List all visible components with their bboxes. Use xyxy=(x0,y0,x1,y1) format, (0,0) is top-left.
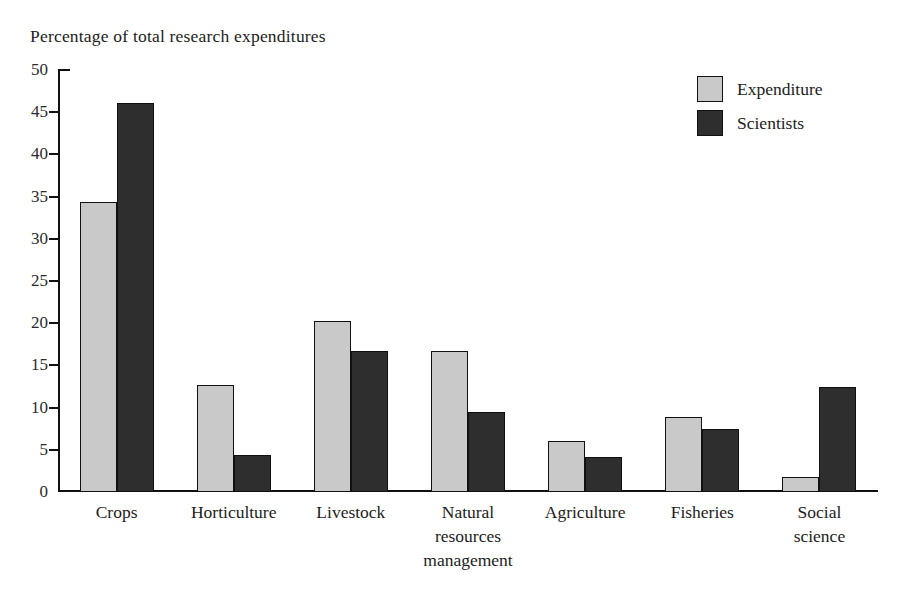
bar xyxy=(702,429,739,492)
legend-item: Expenditure xyxy=(697,72,897,106)
y-tick-label: 40 xyxy=(0,144,48,164)
legend-swatch-light xyxy=(697,76,723,102)
bar xyxy=(80,202,117,492)
x-category-label-line: resources xyxy=(409,524,526,548)
y-tick-label: 35 xyxy=(0,187,48,207)
bar xyxy=(819,387,856,493)
bar xyxy=(468,412,505,492)
x-category-label-line: Agriculture xyxy=(527,500,644,524)
y-tick-label: 25 xyxy=(0,271,48,291)
legend-label: Scientists xyxy=(737,113,804,134)
y-tick-label: 5 xyxy=(0,440,48,460)
legend-item: Scientists xyxy=(697,106,897,140)
x-category-label: Livestock xyxy=(292,500,409,524)
legend-swatch-dark xyxy=(697,110,723,136)
y-tick-label: 15 xyxy=(0,355,48,375)
x-category-label: Socialscience xyxy=(761,500,878,548)
x-category-label-line: Horticulture xyxy=(175,500,292,524)
y-tick-label: 10 xyxy=(0,398,48,418)
chart-title: Percentage of total research expenditure… xyxy=(30,26,326,47)
x-category-label: Fisheries xyxy=(644,500,761,524)
y-tick-label: 30 xyxy=(0,229,48,249)
bar-chart: Percentage of total research expenditure… xyxy=(0,0,899,603)
x-category-label-line: Crops xyxy=(58,500,175,524)
legend-label: Expenditure xyxy=(737,79,823,100)
y-axis-tick-labels: 05101520253035404550 xyxy=(0,70,48,492)
y-tick-label: 0 xyxy=(0,482,48,502)
chart-legend: ExpenditureScientists xyxy=(697,72,897,140)
x-category-label-line: Fisheries xyxy=(644,500,761,524)
x-category-label: Crops xyxy=(58,500,175,524)
bar xyxy=(197,385,234,492)
bar xyxy=(782,477,819,492)
x-category-label-line: Livestock xyxy=(292,500,409,524)
x-category-label: Agriculture xyxy=(527,500,644,524)
bar xyxy=(117,103,154,492)
bar xyxy=(351,351,388,492)
x-category-label-line: Social xyxy=(761,500,878,524)
bar xyxy=(234,455,271,492)
x-category-label: Naturalresourcesmanagement xyxy=(409,500,526,572)
x-category-label-line: science xyxy=(761,524,878,548)
x-category-label-line: management xyxy=(409,548,526,572)
bar xyxy=(548,441,585,492)
y-tick-label: 20 xyxy=(0,313,48,333)
bar xyxy=(665,417,702,492)
bar xyxy=(314,321,351,492)
x-category-label-line: Natural xyxy=(409,500,526,524)
y-tick-label: 45 xyxy=(0,102,48,122)
x-category-label: Horticulture xyxy=(175,500,292,524)
bar xyxy=(585,457,622,492)
bar xyxy=(431,351,468,492)
x-axis-category-labels: CropsHorticultureLivestockNaturalresourc… xyxy=(58,500,878,600)
y-tick-label: 50 xyxy=(0,60,48,80)
